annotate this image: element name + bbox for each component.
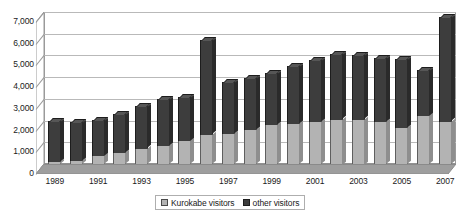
bar-right-face — [147, 104, 151, 148]
x-axis-labels: 1989199119931995199719992001200320052007 — [36, 176, 460, 190]
bar-segment-other-visitors — [287, 66, 300, 124]
bar-right-face — [190, 95, 194, 142]
bar-group[interactable] — [222, 82, 235, 165]
bar-segment-other-visitors — [309, 60, 322, 122]
bar-right-face — [104, 117, 108, 156]
bar-group[interactable] — [244, 78, 257, 164]
x-axis-tick-label: 2007 — [429, 176, 461, 186]
bar-right-face — [429, 67, 433, 116]
x-axis-tick-label: 1991 — [82, 176, 114, 186]
bar-group[interactable] — [309, 60, 322, 164]
other-swatch-icon — [243, 199, 250, 206]
bar-right-face — [299, 64, 303, 124]
bar-group[interactable] — [374, 58, 387, 164]
bar-segment-kurokabe-visitors — [265, 125, 278, 164]
bar-segment-other-visitors — [48, 121, 61, 162]
bar-segment-other-visitors — [92, 120, 105, 157]
bar-right-face — [60, 118, 64, 161]
bar-segment-kurokabe-visitors — [439, 122, 452, 164]
x-axis-tick-label: 1989 — [39, 176, 71, 186]
bar-stack — [222, 82, 235, 165]
bar-group[interactable] — [70, 122, 83, 164]
bar-group[interactable] — [352, 55, 365, 164]
bar-segment-other-visitors — [178, 97, 191, 142]
bar-group[interactable] — [92, 120, 105, 165]
bar-group[interactable] — [200, 40, 213, 164]
bar-segment-kurokabe-visitors — [92, 156, 105, 164]
bar-segment-kurokabe-visitors — [200, 135, 213, 164]
bar-segment-other-visitors — [113, 114, 126, 153]
bar-group[interactable] — [417, 70, 430, 164]
bar-right-face — [147, 146, 151, 164]
bar-stack — [374, 58, 387, 164]
bar-group[interactable] — [330, 54, 343, 164]
bar-right-face — [125, 150, 129, 164]
x-axis-tick-label: 1999 — [256, 176, 288, 186]
bar-group[interactable] — [395, 59, 408, 164]
bar-right-face — [60, 159, 64, 164]
bar-segment-other-visitors — [374, 58, 387, 122]
bar-stack — [265, 73, 278, 164]
bar-stack — [157, 99, 170, 164]
bar-segment-kurokabe-visitors — [178, 141, 191, 164]
bar-right-face — [234, 79, 238, 133]
bar-right-face — [256, 76, 260, 130]
bar-right-face — [342, 52, 346, 119]
legend-item-kurokabe-visitors: Kurokabe visitors — [161, 198, 235, 208]
bar-segment-other-visitors — [135, 106, 148, 148]
bar-stack — [113, 114, 126, 164]
legend-label-kurokabe: Kurokabe visitors — [171, 198, 235, 208]
bar-stack — [352, 55, 365, 164]
bar-stack — [92, 120, 105, 165]
bar-right-face — [169, 97, 173, 146]
bar-group[interactable] — [113, 114, 126, 164]
bar-right-face — [451, 15, 455, 121]
bar-right-face — [386, 55, 390, 121]
legend-item-other-visitors: other visitors — [243, 198, 300, 208]
bar-right-face — [234, 130, 238, 164]
bar-group[interactable] — [48, 121, 61, 164]
x-axis-tick-label: 2003 — [342, 176, 374, 186]
bar-segment-kurokabe-visitors — [330, 120, 343, 165]
bar-stack — [287, 66, 300, 164]
x-axis-tick-label: 1995 — [169, 176, 201, 186]
bar-stack — [70, 122, 83, 164]
bar-right-face — [429, 113, 433, 164]
bar-segment-other-visitors — [330, 54, 343, 119]
bar-segment-other-visitors — [200, 40, 213, 134]
bar-group[interactable] — [265, 73, 278, 164]
bar-segment-kurokabe-visitors — [222, 134, 235, 164]
bar-group[interactable] — [287, 66, 300, 164]
bar-segment-kurokabe-visitors — [395, 128, 408, 164]
bar-right-face — [299, 121, 303, 164]
chart-legend: Kurokabe visitors other visitors — [155, 195, 305, 210]
y-axis-tick-label: 1,000 — [0, 147, 34, 156]
bar-group[interactable] — [439, 17, 452, 164]
bar-right-face — [342, 116, 346, 164]
x-axis-tick-label: 2005 — [386, 176, 418, 186]
y-axis-tick-label: 7,000 — [0, 17, 34, 26]
bar-right-face — [125, 112, 129, 153]
bars-layer — [36, 12, 456, 174]
bar-stack — [417, 70, 430, 164]
bar-segment-other-visitors — [70, 122, 83, 161]
bar-segment-kurokabe-visitors — [309, 122, 322, 164]
bar-right-face — [364, 116, 368, 164]
bar-right-face — [256, 127, 260, 164]
bar-segment-kurokabe-visitors — [70, 161, 83, 164]
bar-stack — [178, 97, 191, 164]
y-axis-tick-label: 3,000 — [0, 104, 34, 113]
bar-stack — [330, 54, 343, 164]
bar-right-face — [104, 153, 108, 164]
bar-right-face — [82, 120, 86, 161]
bar-group[interactable] — [178, 97, 191, 164]
y-axis-tick-label: 4,000 — [0, 82, 34, 91]
bar-right-face — [277, 71, 281, 125]
bar-group[interactable] — [135, 106, 148, 164]
bar-group[interactable] — [157, 99, 170, 164]
bar-segment-kurokabe-visitors — [287, 124, 300, 164]
bar-stack — [200, 40, 213, 164]
bar-right-face — [169, 142, 173, 164]
y-axis-labels: 01,0002,0003,0004,0005,0006,0007,000 — [0, 0, 34, 222]
x-axis-tick-label: 1993 — [126, 176, 158, 186]
